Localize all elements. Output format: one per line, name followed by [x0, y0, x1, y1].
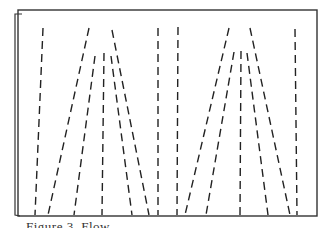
dashed-line-figure	[0, 0, 324, 228]
dashed-line-left-fan-inner-center	[102, 53, 104, 215]
dashed-line-left-outer-vertical	[35, 28, 43, 215]
dashed-line-left-fan-outer-right	[112, 30, 149, 215]
dashed-line-right-fan-inner-right	[247, 53, 268, 215]
dashed-line-left-fan-inner-right	[111, 56, 132, 215]
dashed-line-left-fan-outer-left	[48, 28, 89, 215]
dashed-line-right-outer-vertical	[295, 29, 297, 215]
frame-border	[18, 10, 317, 216]
dashed-line-center-vertical-right	[177, 27, 178, 215]
dashed-line-right-fan-inner-left	[206, 52, 234, 215]
dashed-line-right-fan-inner-center	[240, 51, 241, 215]
figure-frame	[15, 10, 317, 216]
figure-caption: Figure 3. Flow...	[26, 219, 120, 228]
dashed-lines	[35, 27, 297, 215]
